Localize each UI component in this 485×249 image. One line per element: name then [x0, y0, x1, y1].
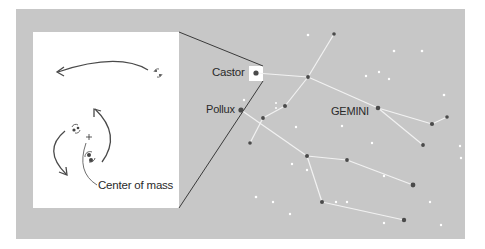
pollux-label: Pollux: [206, 103, 235, 115]
star-castor: [253, 70, 258, 75]
binary-icon-right: [85, 152, 95, 163]
callout-lines: [179, 32, 263, 208]
diagram-layer: [0, 0, 485, 249]
castor-label: Castor: [212, 66, 245, 78]
constellation-name: GEMINI: [331, 105, 369, 117]
constellation-lines: [241, 34, 447, 220]
binary-icon-top: [154, 69, 162, 77]
center-of-mass-leader: [83, 143, 97, 185]
orbit-arrow-top: [58, 61, 148, 72]
background-stars: [243, 34, 462, 227]
constellation-stars: [238, 32, 448, 222]
star-pollux: [238, 107, 243, 112]
center-of-mass-marker: [86, 134, 92, 140]
center-of-mass-label: Center of mass: [98, 179, 173, 191]
orbit-arrow-left: [54, 131, 66, 174]
orbit-arrow-right: [95, 109, 111, 162]
binary-icon-left: [72, 124, 80, 133]
inset-drawing: [54, 61, 148, 185]
